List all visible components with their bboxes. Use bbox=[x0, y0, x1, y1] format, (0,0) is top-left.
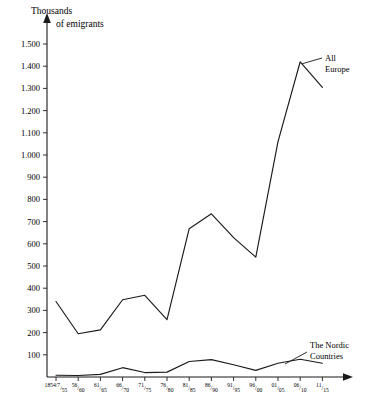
y-axis-tick-label: 1.100 bbox=[21, 128, 40, 138]
y-axis-tick-label: 1.500 bbox=[21, 39, 40, 49]
y-axis-tick-label: 700 bbox=[27, 217, 40, 227]
x-axis-tick-label: 91/95 bbox=[227, 382, 240, 393]
series-label-nordic-line1: The Nordic bbox=[310, 340, 349, 350]
y-axis-tick-label: 1.300 bbox=[21, 83, 40, 93]
leader-line-nordic-countries bbox=[285, 352, 307, 364]
y-axis-tick-label: 1.000 bbox=[21, 150, 40, 160]
series-label-all-europe: All Europe bbox=[325, 53, 350, 74]
x-axis-tick-label: 76/80 bbox=[161, 382, 174, 393]
series-label-all-europe-line1: All bbox=[325, 53, 337, 63]
x-axis-tick-label: 11/15 bbox=[316, 382, 329, 393]
x-axis-tick-label: 06/10 bbox=[294, 382, 307, 393]
y-axis-ticks: 1002003004005006007008009001.0001.1001.2… bbox=[21, 39, 47, 360]
emigration-line-chart: Thousands of emigrants 10020030040050060… bbox=[0, 0, 372, 400]
x-axis-ticks: 1854/7/5556/6061/6566/7071/7576/8081/858… bbox=[45, 377, 329, 393]
y-axis-tick-label: 400 bbox=[27, 283, 40, 293]
y-axis-tick-label: 1.200 bbox=[21, 106, 40, 116]
series-line-nordic-countries bbox=[56, 359, 322, 375]
x-axis-arrow-icon bbox=[343, 373, 353, 381]
series-label-nordic-countries: The Nordic Countries bbox=[310, 340, 349, 361]
y-axis-tick-label: 200 bbox=[27, 328, 40, 338]
series-label-all-europe-line2: Europe bbox=[325, 64, 350, 74]
axis-title-group: Thousands of emigrants bbox=[31, 6, 104, 29]
y-axis-title-line2: of emigrants bbox=[56, 19, 104, 29]
x-axis-tick-label: 96/00 bbox=[249, 382, 262, 393]
y-axis-title-line1: Thousands bbox=[31, 6, 72, 16]
series-label-nordic-line2: Countries bbox=[310, 351, 343, 361]
y-axis-tick-label: 500 bbox=[27, 261, 40, 271]
x-axis-tick-label: 66/70 bbox=[116, 382, 129, 393]
y-axis-tick-label: 800 bbox=[27, 194, 40, 204]
x-axis-tick-label: 71/75 bbox=[138, 382, 151, 393]
chart-canvas: Thousands of emigrants 10020030040050060… bbox=[0, 0, 372, 400]
leader-line-all-europe bbox=[302, 58, 322, 64]
x-axis-tick-label: 86/90 bbox=[205, 382, 218, 393]
y-axis-tick-label: 900 bbox=[27, 172, 40, 182]
y-axis-tick-label: 300 bbox=[27, 305, 40, 315]
x-axis-tick-label: 1854/7/55 bbox=[45, 382, 68, 393]
x-axis-tick-label: 01/05 bbox=[272, 382, 285, 393]
series-line-all-europe bbox=[56, 62, 322, 334]
y-axis-tick-label: 1.400 bbox=[21, 61, 40, 71]
y-axis-tick-label: 100 bbox=[27, 350, 40, 360]
y-axis bbox=[43, 13, 51, 377]
x-axis-tick-label: 81/85 bbox=[183, 382, 196, 393]
x-axis-tick-label: 56/60 bbox=[72, 382, 85, 393]
x-axis-tick-label: 61/65 bbox=[94, 382, 107, 393]
y-axis-tick-label: 600 bbox=[27, 239, 40, 249]
